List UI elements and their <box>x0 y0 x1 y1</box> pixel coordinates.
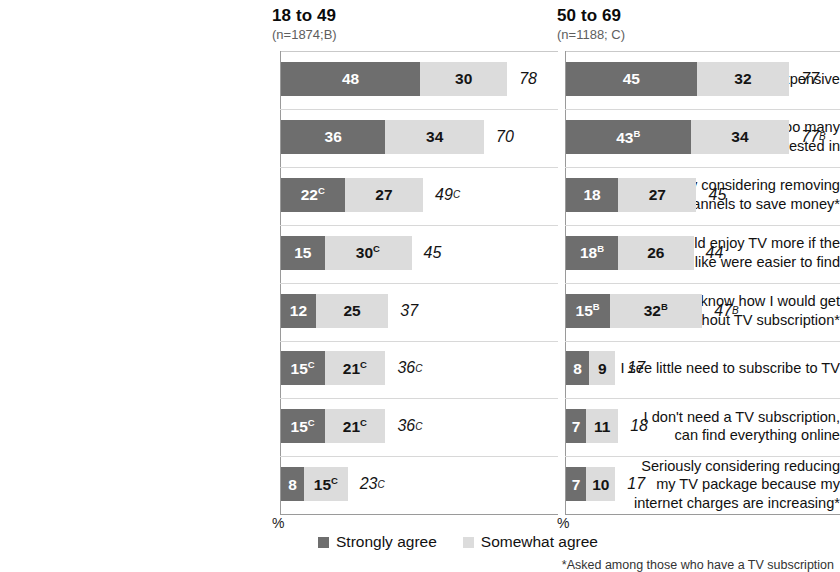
legend-item-somewhat-agree: Somewhat agree <box>463 533 598 551</box>
gridline <box>280 398 558 399</box>
bar-segment-somewhat-agree: 21C <box>325 351 386 385</box>
gridline <box>280 225 558 226</box>
bar-net-total: 49C <box>435 178 460 212</box>
bar-value-label: 27 <box>649 187 666 203</box>
bar-segment-strongly-agree: 15 <box>281 236 325 270</box>
bar-segment-somewhat-agree: 27 <box>345 178 423 212</box>
bar-value-label: 36 <box>325 129 342 145</box>
bar-value-label: 8 <box>573 361 582 377</box>
bar-value-label: 27 <box>375 187 392 203</box>
stacked-bar: 711 <box>566 409 618 443</box>
x-axis-baseline-right <box>565 514 840 515</box>
bar-segment-somewhat-agree: 11 <box>586 409 618 443</box>
bar-net-total: 17 <box>627 351 645 385</box>
bar-segment-strongly-agree: 48 <box>281 62 420 96</box>
bar-value-label: 32B <box>644 302 668 319</box>
gridline <box>280 456 558 457</box>
panel-title: 50 to 69 <box>557 6 625 26</box>
bar-segment-strongly-agree: 36 <box>281 120 385 154</box>
bar-value-label: 30 <box>455 71 472 87</box>
bar-value-label: 25 <box>343 303 360 319</box>
stacked-bar: 15C21C <box>281 351 385 385</box>
gridline <box>565 341 840 342</box>
bar-segment-somewhat-agree: 32 <box>697 62 790 96</box>
panel-subtitle: (n=1874;B) <box>272 27 337 43</box>
bar-segment-strongly-agree: 22C <box>281 178 345 212</box>
bar-segment-somewhat-agree: 25 <box>316 294 389 328</box>
bar-net-total: 36C <box>397 409 422 443</box>
bar-value-label: 12 <box>290 303 307 319</box>
bar-net-total: 37 <box>400 294 418 328</box>
bar-segment-somewhat-agree: 26 <box>618 236 693 270</box>
bar-net-total: 17 <box>627 467 645 501</box>
stacked-bar: 1225 <box>281 294 388 328</box>
x-axis-unit-left: % <box>272 515 284 531</box>
bar-net-total: 70 <box>496 120 514 154</box>
bar-value-label: 22C <box>301 186 325 203</box>
bar-value-label: 10 <box>592 477 609 493</box>
gridline <box>565 109 840 110</box>
bar-segment-strongly-agree: 12 <box>281 294 316 328</box>
bar-value-label: 15B <box>576 302 600 319</box>
panel-subtitle: (n=1188; C) <box>557 27 625 43</box>
bar-value-label: 11 <box>594 419 610 435</box>
x-axis-baseline-left <box>280 514 558 515</box>
bar-segment-strongly-agree: 15C <box>281 351 325 385</box>
gridline <box>280 167 558 168</box>
bar-segment-strongly-agree: 7 <box>566 467 586 501</box>
legend-label: Somewhat agree <box>481 533 598 551</box>
stacked-bar: 1530C <box>281 236 412 270</box>
legend-swatch-icon <box>318 537 329 548</box>
bar-value-label: 15 <box>294 245 311 261</box>
stacked-bar: 4830 <box>281 62 507 96</box>
stacked-bar: 89 <box>566 351 615 385</box>
bar-net-total: 78 <box>519 62 537 96</box>
stacked-bar: 815C <box>281 467 348 501</box>
gridline <box>565 225 840 226</box>
plot-top-border-right <box>565 51 840 52</box>
bar-segment-strongly-agree: 45 <box>566 62 697 96</box>
bar-segment-strongly-agree: 18B <box>566 236 618 270</box>
chart-legend: Strongly agree Somewhat agree <box>318 533 624 551</box>
bar-value-label: 45 <box>623 71 640 87</box>
bar-segment-somewhat-agree: 32B <box>610 294 703 328</box>
gridline <box>280 283 558 284</box>
bar-value-label: 34 <box>426 129 443 145</box>
bar-value-label: 7 <box>572 477 581 493</box>
stacked-bar: 15C21C <box>281 409 385 443</box>
bar-value-label: 7 <box>572 419 581 435</box>
bar-value-label: 34 <box>731 129 748 145</box>
bar-segment-somewhat-agree: 30C <box>325 236 412 270</box>
bar-net-total: 23C <box>360 467 385 501</box>
bar-segment-somewhat-agree: 34 <box>691 120 790 154</box>
gridline <box>280 341 558 342</box>
legend-item-strongly-agree: Strongly agree <box>318 533 437 551</box>
bar-segment-strongly-agree: 15B <box>566 294 610 328</box>
bar-value-label: 18B <box>580 244 604 261</box>
gridline <box>565 398 840 399</box>
bar-value-label: 48 <box>342 71 359 87</box>
bar-segment-somewhat-agree: 21C <box>325 409 386 443</box>
gridline <box>280 109 558 110</box>
panel-header-18-to-49: 18 to 49 (n=1874;B) <box>272 6 337 43</box>
bar-net-total: 44 <box>706 236 724 270</box>
chart-footnote: *Asked among those who have a TV subscri… <box>562 558 834 572</box>
legend-swatch-icon <box>463 537 474 548</box>
bar-segment-somewhat-agree: 34 <box>385 120 484 154</box>
bar-value-label: 21C <box>343 418 367 435</box>
bar-segment-strongly-agree: 8 <box>566 351 589 385</box>
bar-segment-somewhat-agree: 10 <box>586 467 615 501</box>
bar-segment-strongly-agree: 15C <box>281 409 325 443</box>
bar-value-label: 8 <box>288 477 297 493</box>
stacked-bar: 15B32B <box>566 294 702 328</box>
bar-value-label: 26 <box>647 245 664 261</box>
bar-segment-strongly-agree: 43B <box>566 120 691 154</box>
bar-segment-strongly-agree: 8 <box>281 467 304 501</box>
bar-value-label: 15C <box>291 418 315 435</box>
bar-segment-strongly-agree: 7 <box>566 409 586 443</box>
bar-segment-somewhat-agree: 9 <box>589 351 615 385</box>
bar-net-total: 45 <box>424 236 442 270</box>
bar-net-total: 77B <box>801 120 825 154</box>
bar-value-label: 15C <box>314 476 338 493</box>
stacked-bar: 1827 <box>566 178 696 212</box>
